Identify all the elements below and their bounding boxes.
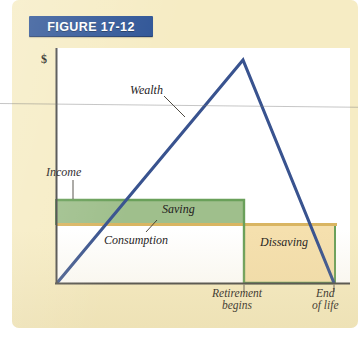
x-tick-label-end-of-life: End of life bbox=[312, 287, 339, 312]
income-label: Income bbox=[46, 166, 81, 179]
wealth-label: Wealth bbox=[130, 84, 163, 97]
retirement-label-line1: Retirement bbox=[212, 287, 262, 299]
endlife-label-line2: of life bbox=[312, 299, 339, 311]
consumption-label: Consumption bbox=[104, 234, 168, 247]
life-cycle-chart bbox=[12, 0, 358, 328]
dissaving-label: Dissaving bbox=[260, 236, 308, 249]
saving-label: Saving bbox=[162, 203, 195, 216]
retirement-label-line2: begins bbox=[212, 299, 262, 311]
wealth-leader-line bbox=[164, 96, 185, 117]
endlife-label-line1: End bbox=[312, 287, 339, 299]
saving-region bbox=[56, 200, 244, 224]
x-tick-label-retirement: Retirement begins bbox=[212, 287, 262, 312]
figure-card: FIGURE 17-12 $ Wealth Income Saving Cons… bbox=[12, 0, 358, 328]
y-axis-label: $ bbox=[41, 52, 47, 67]
